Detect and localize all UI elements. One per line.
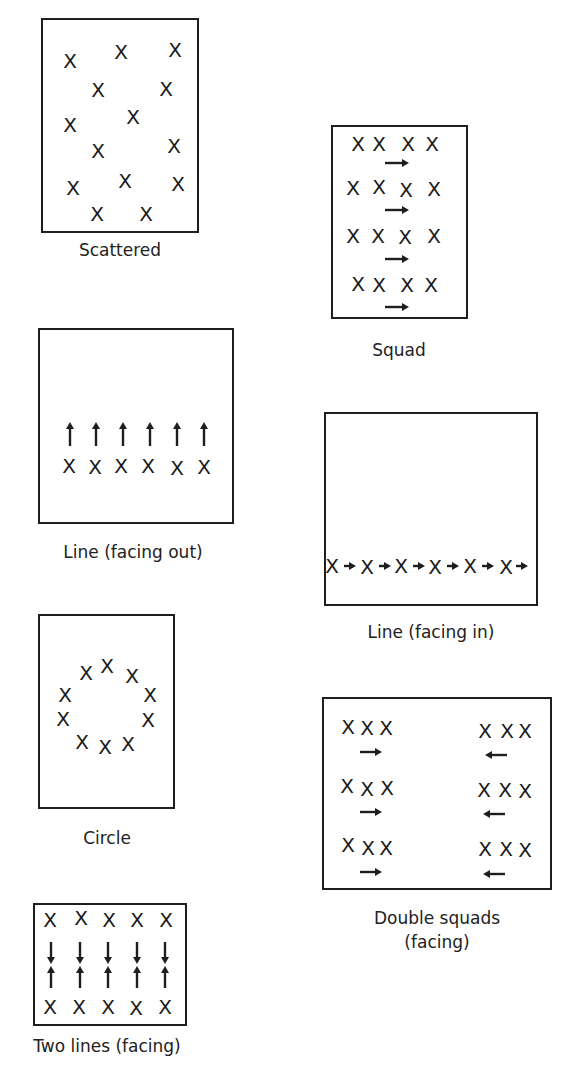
arrow-up-icon — [103, 966, 113, 988]
player-x-icon: X — [341, 717, 355, 737]
player-x-icon: X — [62, 456, 76, 476]
arrow-right-icon — [360, 867, 382, 877]
player-x-icon: X — [498, 780, 512, 800]
panel-label: Scattered — [10, 238, 230, 262]
player-x-icon: X — [361, 838, 375, 858]
player-x-icon: X — [43, 910, 57, 930]
player-x-icon: X — [518, 721, 532, 741]
player-x-icon: X — [43, 997, 57, 1017]
panel-label-text-line2: (facing) — [327, 930, 547, 954]
panel-label-text: Circle — [0, 826, 217, 850]
player-x-icon: X — [394, 556, 408, 576]
arrow-right-icon — [385, 205, 409, 215]
panel-label-text: Line (facing out) — [23, 540, 243, 564]
arrow-up-icon — [75, 966, 85, 988]
arrow-down-icon — [75, 942, 85, 964]
player-x-icon: X — [139, 204, 153, 224]
player-x-icon: X — [500, 721, 514, 741]
player-x-icon: X — [58, 685, 72, 705]
arrow-right-icon — [385, 158, 409, 168]
player-x-icon: X — [463, 556, 477, 576]
arrow-down-icon — [160, 942, 170, 964]
arrow-right-icon — [385, 302, 409, 312]
panel-label: Squad — [289, 338, 509, 362]
panel-label: Line (facing in) — [321, 620, 541, 644]
player-x-icon: X — [56, 709, 70, 729]
player-x-icon: X — [372, 275, 386, 295]
player-x-icon: X — [121, 734, 135, 754]
figure-caption-cut-off — [5, 1079, 115, 1087]
player-x-icon: X — [159, 910, 173, 930]
arrow-up-icon — [132, 966, 142, 988]
player-x-icon: X — [126, 107, 140, 127]
player-x-icon: X — [98, 737, 112, 757]
arrow-right-icon — [482, 561, 494, 571]
arrow-right-icon — [360, 747, 382, 757]
arrow-up-icon — [160, 966, 170, 988]
arrow-left-icon — [483, 869, 505, 879]
arrow-right-icon — [413, 561, 425, 571]
player-x-icon: X — [478, 721, 492, 741]
player-x-icon: X — [341, 835, 355, 855]
player-x-icon: X — [360, 557, 374, 577]
panel-label: Double squads(facing) — [327, 906, 547, 954]
arrow-down-icon — [103, 942, 113, 964]
player-x-icon: X — [90, 204, 104, 224]
player-x-icon: X — [141, 456, 155, 476]
player-x-icon: X — [499, 557, 513, 577]
player-x-icon: X — [371, 226, 385, 246]
player-x-icon: X — [351, 134, 365, 154]
arrow-right-icon — [516, 561, 528, 571]
player-x-icon: X — [141, 710, 155, 730]
arrow-left-icon — [485, 750, 507, 760]
player-x-icon: X — [340, 776, 354, 796]
player-x-icon: X — [129, 998, 143, 1018]
arrow-up-icon — [118, 422, 128, 446]
arrow-up-icon — [91, 422, 101, 446]
arrow-up-icon — [65, 422, 75, 446]
player-x-icon: X — [424, 275, 438, 295]
player-x-icon: X — [372, 134, 386, 154]
arrow-right-icon — [447, 561, 459, 571]
player-x-icon: X — [91, 80, 105, 100]
player-x-icon: X — [100, 656, 114, 676]
arrow-up-icon — [199, 422, 209, 446]
arrow-up-icon — [145, 422, 155, 446]
player-x-icon: X — [66, 178, 80, 198]
arrow-down-icon — [46, 942, 56, 964]
player-x-icon: X — [158, 997, 172, 1017]
player-x-icon: X — [143, 685, 157, 705]
arrow-left-icon — [483, 809, 505, 819]
player-x-icon: X — [427, 226, 441, 246]
player-x-icon: X — [79, 663, 93, 683]
player-x-icon: X — [346, 226, 360, 246]
panel-label-text: Scattered — [10, 238, 230, 262]
player-x-icon: X — [379, 838, 393, 858]
player-x-icon: X — [167, 136, 181, 156]
player-x-icon: X — [425, 134, 439, 154]
player-x-icon: X — [125, 666, 139, 686]
player-x-icon: X — [159, 79, 173, 99]
player-x-icon: X — [346, 178, 360, 198]
player-x-icon: X — [518, 840, 532, 860]
panel-label: Two lines (facing) — [0, 1034, 217, 1058]
arrow-right-icon — [360, 807, 382, 817]
player-x-icon: X — [197, 457, 211, 477]
panel-label-text: Squad — [289, 338, 509, 362]
panel-label: Circle — [0, 826, 217, 850]
panel-label: Line (facing out) — [23, 540, 243, 564]
arrow-right-icon — [379, 561, 391, 571]
player-x-icon: X — [400, 275, 414, 295]
player-x-icon: X — [101, 997, 115, 1017]
player-x-icon: X — [360, 779, 374, 799]
player-x-icon: X — [325, 556, 339, 576]
player-x-icon: X — [398, 227, 412, 247]
player-x-icon: X — [114, 42, 128, 62]
player-x-icon: X — [130, 910, 144, 930]
player-x-icon: X — [114, 456, 128, 476]
player-x-icon: X — [478, 839, 492, 859]
player-x-icon: X — [102, 910, 116, 930]
arrow-up-icon — [46, 966, 56, 988]
player-x-icon: X — [170, 458, 184, 478]
player-x-icon: X — [63, 51, 77, 71]
